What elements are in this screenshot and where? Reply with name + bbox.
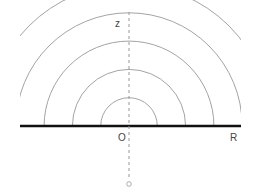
origin-label: O <box>118 132 126 143</box>
arc-3 <box>44 41 214 126</box>
hemisphere-diagram: z O R <box>0 0 260 195</box>
source-point <box>127 182 132 187</box>
z-label: z <box>115 18 120 29</box>
wavefront-arcs <box>0 0 260 126</box>
arc-5 <box>0 0 260 126</box>
radius-label: R <box>230 132 237 143</box>
